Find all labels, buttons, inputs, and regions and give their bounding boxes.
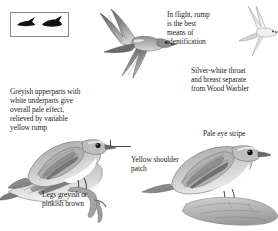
annotation-silver-throat: Silver-white throat and breast separate … (191, 66, 278, 93)
illustration-warbler-in-flight-underside (238, 4, 278, 60)
annotation-pale-eye-stripe: Pale eye stripe (203, 129, 273, 138)
annotation-in-flight: In flight, rump is the best means of ide… (167, 10, 233, 46)
silhouette-pair-icon (11, 13, 66, 34)
illustration-plate: Greyish upperparts with white underparts… (0, 0, 278, 231)
flight-silhouette-box (10, 12, 69, 37)
annotation-yellow-shoulder: Yellow shoulder patch (131, 155, 195, 173)
illustration-warbler-perched-on-rock (140, 128, 278, 228)
leader-line-shoulder-horizontal (110, 146, 131, 147)
annotation-legs: Legs greyish or pinkish brown (42, 190, 104, 208)
annotation-upperparts: Greyish upperparts with white underparts… (10, 87, 128, 132)
